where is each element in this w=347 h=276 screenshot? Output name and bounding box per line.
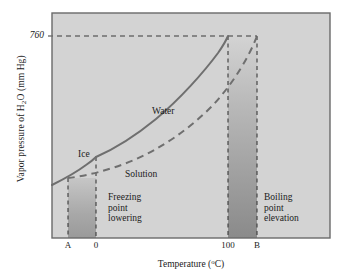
xtick-label-B: B bbox=[247, 240, 267, 250]
xtick-label-0: 0 bbox=[86, 240, 106, 250]
series-label-water: Water bbox=[152, 106, 174, 116]
boiling-band-shade bbox=[228, 36, 257, 238]
y-axis-title-subscript: 2 bbox=[20, 101, 28, 105]
x-axis-title: Temperature (oC) bbox=[52, 258, 330, 269]
annotation-line: point bbox=[108, 203, 142, 214]
vapor-pressure-chart: 760 A 0 100 B Water Ice Solution Freezin… bbox=[0, 0, 347, 276]
annotation-freezing-point-lowering: Freezing point lowering bbox=[108, 192, 142, 224]
y-axis-title: Vapor pressure of H2O (mm Hg) bbox=[16, 24, 30, 214]
annotation-line: elevation bbox=[264, 213, 299, 224]
series-label-solution: Solution bbox=[125, 169, 157, 179]
y-axis-title-post: O (mm Hg) bbox=[16, 55, 26, 100]
annotation-line: Freezing bbox=[108, 192, 142, 203]
annotation-line: point bbox=[264, 203, 299, 214]
xtick-label-100: 100 bbox=[214, 240, 242, 250]
series-label-ice: Ice bbox=[78, 149, 90, 159]
annotation-line: lowering bbox=[108, 213, 142, 224]
y-axis-title-pre: Vapor pressure of H bbox=[16, 104, 26, 182]
annotation-boiling-point-elevation: Boiling point elevation bbox=[264, 192, 299, 224]
x-axis-title-post: C) bbox=[215, 259, 225, 269]
annotation-line: Boiling bbox=[264, 192, 299, 203]
xtick-label-A: A bbox=[58, 240, 78, 250]
x-axis-title-pre: Temperature ( bbox=[158, 259, 211, 269]
plot-canvas bbox=[0, 0, 347, 276]
freezing-band-shade bbox=[68, 178, 96, 238]
